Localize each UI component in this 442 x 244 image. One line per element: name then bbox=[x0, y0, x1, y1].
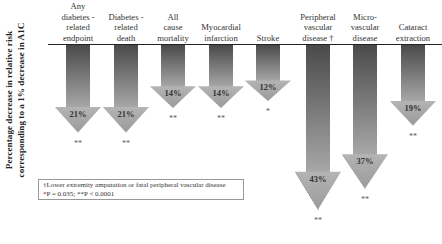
value-label: 19% bbox=[405, 103, 422, 113]
significance-marker: * bbox=[266, 107, 270, 116]
down-arrow: 21%** bbox=[103, 45, 149, 148]
significance-marker: ** bbox=[169, 114, 177, 123]
significance-marker: ** bbox=[74, 139, 82, 148]
footnote-significance: *P = 0.035; **P < 0.0001 bbox=[43, 190, 239, 199]
significance-marker: ** bbox=[217, 114, 225, 123]
value-label: 43% bbox=[310, 174, 327, 184]
value-label: 21% bbox=[118, 109, 135, 119]
value-label: 14% bbox=[213, 88, 230, 98]
significance-marker: ** bbox=[314, 216, 322, 225]
value-label: 12% bbox=[260, 82, 277, 92]
down-arrow: 43%** bbox=[295, 45, 341, 225]
value-label: 21% bbox=[70, 109, 87, 119]
down-arrow: 19%** bbox=[390, 45, 436, 141]
arrow-chart: 21%**21%**14%**14%**12%*43%**37%**19%** bbox=[0, 0, 442, 244]
footnote-box: †Lower extremity amputation or fatal per… bbox=[38, 179, 244, 200]
significance-marker: ** bbox=[409, 132, 417, 141]
down-arrow: 14%** bbox=[150, 45, 196, 123]
significance-marker: ** bbox=[361, 195, 369, 204]
value-label: 37% bbox=[357, 156, 374, 166]
significance-marker: ** bbox=[122, 139, 130, 148]
footnote-dagger: †Lower extremity amputation or fatal per… bbox=[43, 181, 239, 190]
value-label: 14% bbox=[165, 88, 182, 98]
down-arrow: 21%** bbox=[55, 45, 101, 148]
down-arrow: 12%* bbox=[245, 45, 291, 116]
down-arrow: 14%** bbox=[198, 45, 244, 123]
down-arrow: 37%** bbox=[342, 45, 388, 204]
